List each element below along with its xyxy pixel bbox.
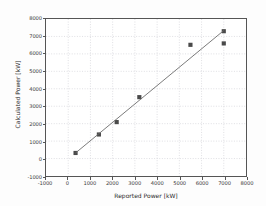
x-axis-title: Reported Power [kW] [45,192,247,199]
x-tick-label: 8000 [232,180,262,186]
chart-figure: -1000010002000300040005000600070008000 -… [0,0,266,206]
x-tick-mark [135,177,136,180]
x-tick-mark [67,177,68,180]
plot-area [45,18,247,177]
data-series-layer [46,19,246,176]
x-tick-mark [90,177,91,180]
y-tick-label: 0 [16,156,42,162]
x-tick-mark [45,177,46,180]
x-tick-mark [112,177,113,180]
x-tick-mark [180,177,181,180]
x-tick-mark [247,177,248,180]
x-tick-mark [202,177,203,180]
x-tick-mark [225,177,226,180]
data-point-marker [222,41,226,45]
data-point-marker [188,43,192,47]
y-axis-title: Calculated Power [kW] [14,35,21,155]
y-tick-label: 8000 [16,15,42,21]
fit-line [76,31,224,153]
x-tick-mark [157,177,158,180]
